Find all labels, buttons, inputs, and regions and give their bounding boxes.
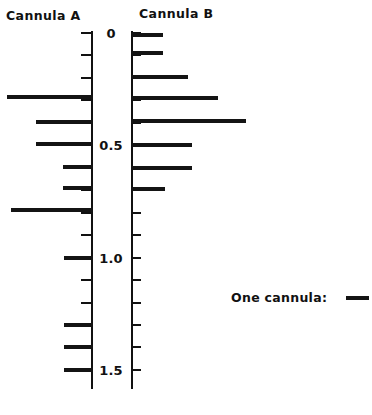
cannula-bar bbox=[131, 51, 163, 55]
cannula-line-swatch bbox=[346, 296, 369, 300]
axis-tick bbox=[81, 32, 91, 34]
axis-tick bbox=[131, 279, 141, 281]
panel-b-title: Cannula B bbox=[139, 6, 214, 21]
cannula-depth-figure: Cannula A Cannula B 00.51.01.5 One cannu… bbox=[0, 0, 372, 415]
cannula-bar bbox=[64, 256, 93, 260]
axis-tick bbox=[81, 99, 91, 101]
cannula-bar bbox=[131, 166, 192, 170]
cannula-bar bbox=[63, 165, 93, 169]
axis-tick-label: 1.0 bbox=[96, 250, 126, 265]
axis-tick bbox=[81, 279, 91, 281]
axis-tick bbox=[131, 324, 141, 326]
cannula-bar bbox=[36, 142, 93, 146]
axis-tick bbox=[81, 77, 91, 79]
cannula-bar bbox=[131, 119, 246, 123]
axis-tick bbox=[81, 234, 91, 236]
cannula-bar bbox=[63, 186, 93, 190]
axis-tick-label: 1.5 bbox=[96, 362, 126, 377]
axis-tick-label: 0.5 bbox=[96, 138, 126, 153]
axis-tick bbox=[81, 54, 91, 56]
cannula-bar bbox=[131, 96, 218, 100]
cannula-bar bbox=[131, 33, 163, 37]
axis-tick bbox=[131, 369, 141, 371]
legend-label: One cannula: bbox=[231, 290, 327, 305]
axis-tick bbox=[131, 302, 141, 304]
cannula-bar bbox=[64, 345, 93, 349]
axis-spine-cannula-b bbox=[131, 31, 133, 389]
cannula-bar bbox=[64, 368, 93, 372]
cannula-bar bbox=[131, 75, 188, 79]
axis-tick bbox=[131, 257, 141, 259]
axis-tick bbox=[131, 346, 141, 348]
cannula-bar bbox=[36, 120, 93, 124]
cannula-bar bbox=[131, 143, 192, 147]
panel-a-title: Cannula A bbox=[6, 8, 81, 23]
axis-tick bbox=[131, 234, 141, 236]
cannula-bar bbox=[7, 95, 93, 99]
cannula-bar bbox=[11, 208, 93, 212]
axis-tick bbox=[131, 212, 141, 214]
cannula-bar bbox=[131, 187, 165, 191]
axis-tick-label: 0 bbox=[96, 26, 126, 41]
axis-tick bbox=[81, 302, 91, 304]
cannula-bar bbox=[64, 323, 93, 327]
